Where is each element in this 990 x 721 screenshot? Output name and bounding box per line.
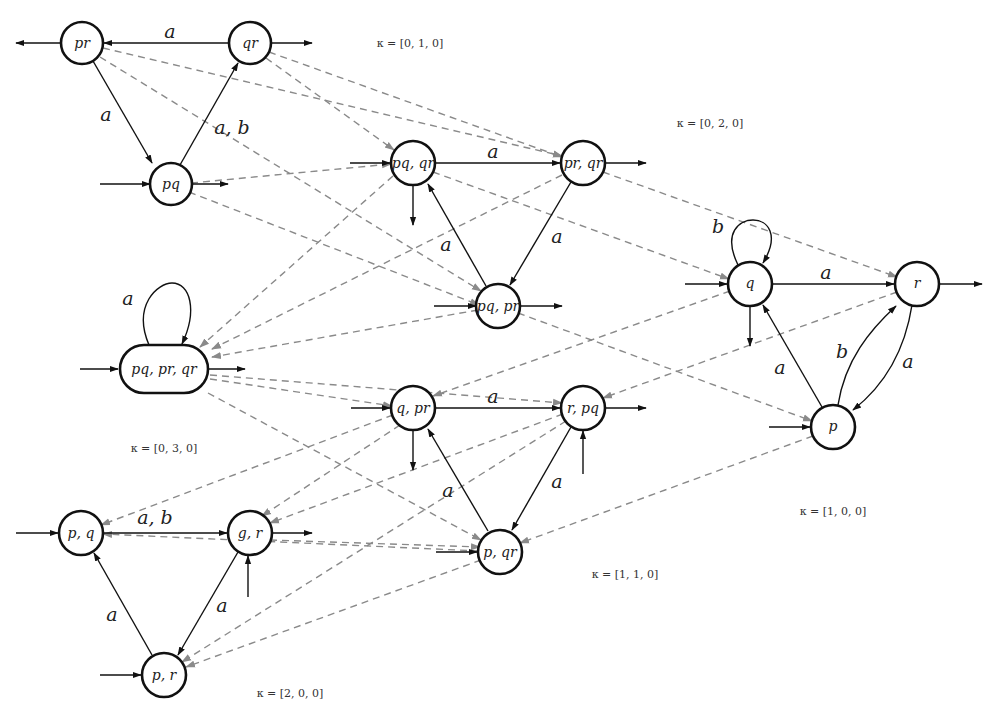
edge-label: a (106, 603, 117, 625)
edge-label: a (122, 287, 133, 309)
state-label: pr (74, 35, 91, 51)
edge-label: a (100, 103, 111, 125)
edge-label: a (551, 470, 562, 492)
state-label: q (746, 275, 755, 291)
edge-label: a (442, 479, 453, 501)
group-kappa-020: a a a pq, qr pr, qr pq, pr κ = [0, 2, 0] (350, 117, 743, 328)
state-label: p, q (68, 525, 95, 541)
state-label: p, r (152, 667, 178, 683)
edge-label: b (712, 215, 724, 237)
kappa-label: κ = [2, 0, 0] (257, 687, 324, 700)
edge-label: a, b (214, 116, 250, 138)
edge-label: a (902, 350, 913, 372)
edge-label: a (216, 594, 227, 616)
kappa-label: κ = [0, 3, 0] (131, 442, 198, 455)
state-label: pq, pr, qr (131, 361, 198, 377)
edge-label: a (164, 20, 175, 42)
automaton-diagram: a a a, b pr qr pq κ = [0, 1, 0] a a a pq… (0, 0, 990, 721)
edge-label: a (487, 140, 498, 162)
state-label: pq, pr (477, 298, 521, 314)
edge-label: b (836, 340, 848, 362)
kappa-label: κ = [1, 0, 0] (800, 505, 867, 518)
edge-label: a (820, 261, 831, 283)
group-kappa-110: a a a q, pr r, pq p, qr κ = [1, 1, 0] (351, 385, 658, 581)
kappa-label: κ = [0, 1, 0] (377, 37, 444, 50)
edge-label: a (774, 356, 785, 378)
state-label: qr (242, 35, 259, 51)
state-label: pq (162, 176, 180, 192)
state-label: r, pq (567, 400, 599, 416)
kappa-label: κ = [1, 1, 0] (592, 568, 659, 581)
kappa-label: κ = [0, 2, 0] (677, 117, 744, 130)
edge-label: a (487, 385, 498, 407)
edge-label: a (440, 233, 451, 255)
edge-label: a, b (137, 506, 173, 528)
state-label: p, qr (483, 544, 518, 560)
edge-label: a (551, 225, 562, 247)
group-kappa-100: b a a b a q r p κ = [1, 0, 0] (685, 215, 982, 518)
state-label: p (829, 418, 838, 434)
state-label: pq, qr (392, 155, 436, 171)
group-kappa-010: a a a, b pr qr pq κ = [0, 1, 0] (16, 20, 443, 205)
state-label: g, r (238, 525, 264, 541)
state-label: pr, qr (564, 155, 604, 171)
group-kappa-030: a pq, pr, qr κ = [0, 3, 0] (80, 283, 245, 455)
state-label: q, pr (396, 400, 431, 416)
